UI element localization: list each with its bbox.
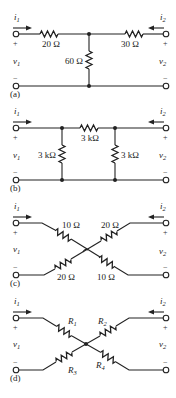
terminal-1-plus xyxy=(13,125,19,131)
v2-plus-sign: + xyxy=(163,323,168,332)
v1-label: v1 xyxy=(13,56,20,67)
v1-plus-sign: + xyxy=(13,133,18,142)
v2-minus-sign: − xyxy=(163,263,168,272)
center-node-dot xyxy=(84,342,88,346)
resistor-R2 xyxy=(99,324,118,338)
terminal-2-minus xyxy=(163,177,169,183)
r-60ohm-label: 60 Ω xyxy=(65,56,83,66)
resistor-3kohm-series xyxy=(80,125,98,131)
v1-minus-sign: − xyxy=(13,74,18,83)
v2-label: v2 xyxy=(159,150,167,161)
i1-arrowhead-icon xyxy=(26,120,32,125)
v2-minus-sign: − xyxy=(163,74,168,83)
v1-label: v1 xyxy=(13,150,20,161)
i1-label: i1 xyxy=(14,201,20,212)
terminal-2-plus xyxy=(163,31,169,37)
node-dot xyxy=(87,32,91,36)
figure-tag-a: (a) xyxy=(10,89,20,99)
v1-minus-sign: − xyxy=(13,168,18,177)
i2-label: i2 xyxy=(160,106,167,117)
resistor-R3 xyxy=(55,350,74,364)
terminal-1-minus xyxy=(13,367,19,373)
terminal-2-plus xyxy=(163,125,169,131)
r1-label: R1 xyxy=(67,316,77,327)
i2-label: i2 xyxy=(160,12,167,23)
r-bottom-right-label: 10 Ω xyxy=(97,272,115,282)
r-left-shunt-label: 3 kΩ xyxy=(38,150,56,160)
r-top-left-label: 10 Ω xyxy=(62,220,80,230)
i2-arrowhead-icon xyxy=(148,215,154,220)
v1-label: v1 xyxy=(13,339,20,350)
v1-plus-sign: + xyxy=(13,39,18,48)
resistor-30ohm xyxy=(125,31,143,37)
resistor-10ohm-top-left xyxy=(54,228,73,242)
i1-label: i1 xyxy=(14,296,20,307)
terminal-2-minus xyxy=(163,83,169,89)
two-port-circuits-figure: i1 i2 20 Ω 30 Ω 60 Ω + + v1 v2 − − (a xyxy=(0,0,176,398)
r-right-shunt-label: 3 kΩ xyxy=(121,150,139,160)
resistor-20ohm xyxy=(40,31,58,37)
v1-minus-sign: − xyxy=(13,358,18,367)
i2-arrowhead-icon xyxy=(148,120,154,125)
i1-label: i1 xyxy=(14,106,20,117)
v1-minus-sign: − xyxy=(13,263,18,272)
circuit-b: i1 i2 3 kΩ 3 kΩ 3 kΩ + + v1 v2 − − (b) xyxy=(10,106,169,193)
r4-label: R4 xyxy=(95,360,106,371)
circuit-c: i1 i2 10 Ω 20 Ω 20 Ω 10 Ω + + v1 v2 − − xyxy=(10,201,169,288)
terminal-1-plus xyxy=(13,315,19,321)
node-dot xyxy=(87,84,91,88)
terminal-1-minus xyxy=(13,272,19,278)
i1-arrowhead-icon xyxy=(26,310,32,315)
r-series-label: 3 kΩ xyxy=(81,133,99,143)
terminal-1-plus xyxy=(13,31,19,37)
i1-arrowhead-icon xyxy=(26,215,32,220)
resistor-3kohm-left-shunt xyxy=(59,145,65,163)
i2-arrowhead-icon xyxy=(148,310,154,315)
circuit-d: i1 i2 R1 R2 R3 R4 + + v1 v2 − − (d) xyxy=(10,296,169,383)
resistor-3kohm-right-shunt xyxy=(112,145,118,163)
i1-label: i1 xyxy=(14,12,20,23)
i2-label: i2 xyxy=(160,201,167,212)
figure-tag-c: (c) xyxy=(10,278,20,288)
figure-tag-d: (d) xyxy=(10,373,21,383)
resistor-60ohm xyxy=(86,51,92,69)
i1-arrowhead-icon xyxy=(26,26,32,31)
terminal-2-plus xyxy=(163,315,169,321)
circuit-a: i1 i2 20 Ω 30 Ω 60 Ω + + v1 v2 − − (a xyxy=(10,12,169,99)
resistor-20ohm-top-right xyxy=(100,229,119,243)
r2-label: R2 xyxy=(97,316,108,327)
r3-label: R3 xyxy=(67,365,78,376)
terminal-2-minus xyxy=(163,272,169,278)
v2-minus-sign: − xyxy=(163,168,168,177)
v1-label: v1 xyxy=(13,244,20,255)
terminal-1-minus xyxy=(13,83,19,89)
v2-plus-sign: + xyxy=(163,39,168,48)
v2-minus-sign: − xyxy=(163,358,168,367)
v1-plus-sign: + xyxy=(13,228,18,237)
v2-plus-sign: + xyxy=(163,133,168,142)
resistor-20ohm-bottom-left xyxy=(54,257,73,271)
r-bottom-left-label: 20 Ω xyxy=(57,272,75,282)
figure-tag-b: (b) xyxy=(10,183,21,193)
terminal-2-plus xyxy=(163,220,169,226)
v2-label: v2 xyxy=(159,56,167,67)
r-top-right-label: 20 Ω xyxy=(101,220,119,230)
resistor-R1 xyxy=(55,324,74,338)
v2-plus-sign: + xyxy=(163,228,168,237)
i2-arrowhead-icon xyxy=(148,26,154,31)
v2-label: v2 xyxy=(159,339,167,350)
resistor-10ohm-bottom-right xyxy=(98,255,117,269)
r-30ohm-label: 30 Ω xyxy=(121,39,139,49)
i2-label: i2 xyxy=(160,296,167,307)
terminal-1-plus xyxy=(13,220,19,226)
v1-plus-sign: + xyxy=(13,323,18,332)
v2-label: v2 xyxy=(159,246,167,257)
terminal-1-minus xyxy=(13,177,19,183)
terminal-2-minus xyxy=(163,367,169,373)
r-20ohm-label: 20 Ω xyxy=(42,39,60,49)
